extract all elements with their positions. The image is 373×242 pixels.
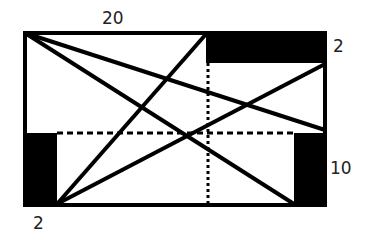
label-top-width: 20	[102, 8, 124, 28]
label-top-right-height: 2	[333, 36, 344, 56]
top-right-block	[206, 31, 327, 63]
bottom-right-block	[294, 133, 327, 206]
bottom-left-block	[23, 133, 57, 206]
label-right-height: 10	[330, 158, 352, 178]
label-bottom-left-width: 2	[33, 213, 44, 233]
line-bottomleft-to-top	[57, 33, 207, 204]
geometry-diagram: 20 2 10 2	[0, 0, 373, 242]
